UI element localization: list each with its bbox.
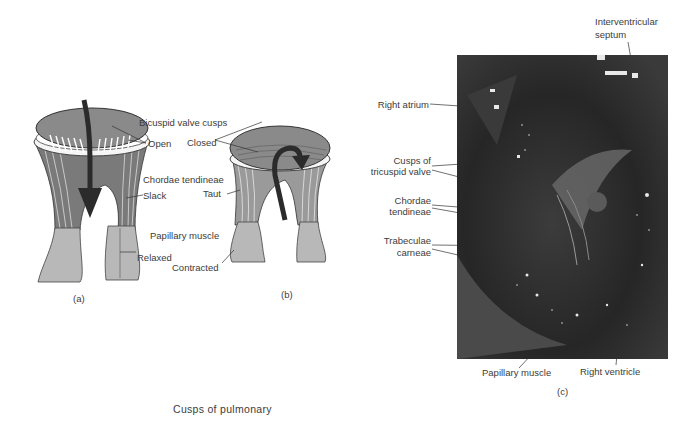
label-contracted: Contracted [172,262,218,273]
label-trabeculae-line2: carneae [397,247,431,258]
caption-c: (c) [557,386,568,397]
label-right-atrium: Right atrium [378,99,429,110]
bottom-caption: Cusps of pulmonary [173,403,272,415]
label-relaxed: Relaxed [137,252,172,263]
label-cusps-tricuspid-line1: Cusps of [394,155,432,166]
label-bicuspid-valve-cusps: Bicuspid valve cusps [139,117,227,128]
label-cusps-tricuspid-line2: tricuspid valve [371,166,431,177]
valve-a-drawing [34,100,150,282]
label-chordae-line1: Chordae [395,195,431,206]
label-chordae-tendineae: Chordae tendineae [143,174,224,185]
caption-a: (a) [73,293,85,304]
caption-b: (b) [281,289,293,300]
label-slack: Slack [143,190,166,201]
label-closed: Closed [187,137,217,148]
label-right-ventricle: Right ventricle [580,366,640,377]
label-interventricular-septum-line1: Interventricular [595,16,658,27]
valve-b-drawing [215,122,330,263]
label-open: Open [148,138,171,149]
label-chordae-line2: tendineae [389,206,431,217]
label-interventricular-septum-line2: septum [595,29,626,40]
label-trabeculae-line1: Trabeculae [384,235,431,246]
label-taut: Taut [203,188,221,199]
heart-dissection-photo [457,55,668,359]
label-papillary-muscle: Papillary muscle [150,230,219,241]
label-papillary-muscle-photo: Papillary muscle [482,367,551,378]
